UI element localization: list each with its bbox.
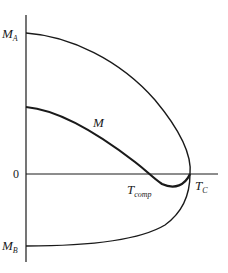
curve-ma (26, 33, 190, 174)
label-ma: MA (1, 26, 18, 43)
label-tc: TC (195, 178, 208, 195)
curve-m (26, 107, 190, 187)
label-zero: 0 (13, 167, 19, 181)
label-tcomp: Tcomp (127, 182, 152, 199)
magnetization-diagram: MA M 0 Tcomp TC MB (0, 0, 228, 273)
label-m: M (92, 115, 105, 130)
label-mb: MB (1, 238, 18, 255)
